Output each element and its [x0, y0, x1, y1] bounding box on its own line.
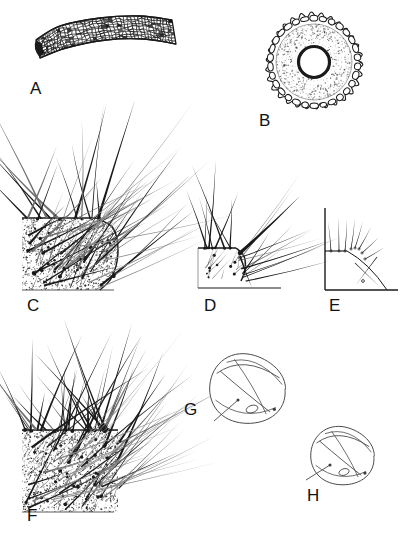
- panel-label-d: D: [204, 297, 217, 314]
- illustration-plate: A B C D E F G H: [0, 0, 406, 549]
- panel-label-b: B: [259, 112, 271, 129]
- panel-label-e: E: [329, 297, 341, 314]
- panel-label-a: A: [30, 80, 42, 97]
- panel-label-h: H: [307, 487, 320, 504]
- plate-artwork: [0, 0, 406, 549]
- panel-label-c: C: [27, 297, 40, 314]
- panel-label-g: G: [184, 401, 198, 418]
- panel-label-f: F: [27, 507, 38, 524]
